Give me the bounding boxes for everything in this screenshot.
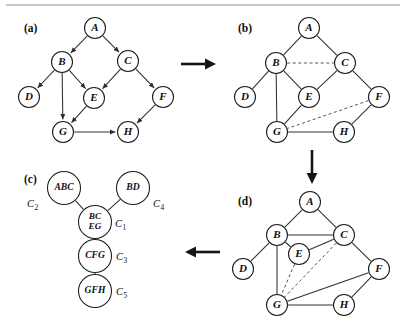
graph-nodes-layer: ABCDEFGHABCDEFGHABCDEFGHABCBDBCEGCFGGFH (19, 18, 390, 316)
edge-b-A-C (317, 36, 337, 56)
flow-arrow-head-a-to-b (205, 59, 216, 70)
node-text-d-H: H (339, 298, 349, 310)
flow-arrow-d-to-c (185, 247, 220, 258)
edge-a-B-D (38, 70, 55, 88)
edge-d-E-G (281, 264, 294, 295)
node-b-H: H (334, 122, 355, 143)
edge-b-C-E (317, 71, 337, 90)
clique-tag-subscript-BD: 4 (160, 203, 164, 212)
edge-d-F-G (287, 273, 368, 302)
edge-b-F-H (352, 105, 371, 124)
node-d-H: H (334, 295, 355, 316)
flow-arrow-b-to-d (307, 150, 318, 184)
edge-d-B-D (251, 243, 269, 261)
node-text-d-F: F (374, 262, 383, 274)
node-a-B: B (52, 52, 73, 73)
clique-tag-GFH: C5 (116, 286, 127, 299)
edge-a-A-B (71, 36, 87, 53)
node-a-A: A (85, 18, 106, 39)
flow-arrow-a-to-b (181, 59, 216, 70)
clique-tag-subscript-ABC: 2 (34, 203, 38, 212)
edge-c-BD-BCEG (108, 199, 121, 210)
node-d-E: E (289, 244, 310, 265)
node-text-c-CFG: CFG (85, 249, 105, 260)
edge-b-B-G (276, 74, 277, 121)
panel-label-c: (c) (24, 173, 37, 186)
node-text-a-F: F (158, 90, 167, 102)
edge-d-C-F (352, 243, 371, 262)
node-d-B: B (267, 225, 288, 246)
edge-b-B-E (284, 71, 302, 89)
edge-a-C-E (103, 69, 121, 88)
node-text-d-C: C (340, 228, 348, 240)
figure-canvas: ABCDEFGHABCDEFGHABCDEFGHABCBDBCEGCFGGFH … (0, 0, 406, 333)
node-b-E: E (299, 87, 320, 108)
node-text-b-G: G (273, 125, 281, 137)
node-text-c-BCEG-1: EG (88, 221, 102, 231)
node-text-a-G: G (59, 125, 67, 137)
edge-a-B-G (62, 73, 63, 119)
node-text-d-E: E (294, 247, 302, 259)
edge-c-ABC-BCEG (76, 201, 84, 210)
node-text-a-D: D (24, 90, 33, 102)
clique-tag-BD: C4 (153, 198, 164, 211)
panel-label-d: (d) (238, 195, 252, 208)
edge-b-E-G (284, 105, 301, 124)
edge-d-F-H (352, 277, 372, 297)
node-a-C: C (118, 51, 139, 72)
node-c-BD: BD (117, 172, 150, 205)
edge-d-B-E (285, 242, 290, 246)
node-text-a-H: H (123, 125, 133, 137)
node-c-BCEG: BCEG (79, 206, 112, 239)
edge-a-A-C (103, 36, 119, 52)
edge-a-B-E (69, 70, 85, 88)
flow-arrow-head-d-to-c (185, 247, 196, 258)
node-b-F: F (369, 87, 390, 108)
node-a-E: E (84, 88, 105, 109)
node-a-H: H (118, 122, 139, 143)
node-text-c-ABC: ABC (53, 181, 74, 192)
node-text-b-D: D (240, 90, 249, 102)
node-d-D: D (233, 259, 254, 280)
node-text-a-A: A (90, 21, 98, 33)
clique-tag-ABC: C2 (27, 198, 38, 211)
edge-b-B-D (252, 71, 268, 89)
edge-d-A-C (318, 210, 336, 228)
panel-label-b: (b) (238, 22, 252, 35)
clique-tag-subscript-CFG: 3 (123, 256, 127, 265)
node-a-F: F (153, 87, 174, 108)
node-text-b-B: B (271, 56, 279, 68)
edge-a-F-H (137, 105, 155, 123)
node-d-G: G (267, 295, 288, 316)
node-text-d-D: D (238, 262, 247, 274)
edge-a-E-G (72, 106, 87, 122)
node-b-G: G (267, 122, 288, 143)
edge-b-A-B (284, 36, 302, 55)
node-c-GFH: GFH (79, 275, 112, 308)
node-text-a-B: B (57, 55, 65, 67)
node-text-d-G: G (273, 298, 281, 310)
node-text-c-GFH: GFH (85, 284, 106, 295)
node-a-D: D (19, 87, 40, 108)
panel-label-a: (a) (24, 22, 38, 35)
node-text-a-E: E (89, 91, 97, 103)
node-c-ABC: ABC (48, 172, 81, 205)
clique-tag-subscript-BCEG: 1 (122, 223, 126, 232)
node-text-a-C: C (124, 54, 132, 66)
node-text-d-A: A (305, 195, 313, 207)
node-text-b-H: H (339, 125, 349, 137)
node-text-b-E: E (304, 90, 312, 102)
edge-b-F-G (288, 101, 369, 129)
node-text-c-BD: BD (125, 181, 139, 192)
edge-d-C-E (309, 239, 334, 249)
node-text-c-BCEG-0: BC (88, 211, 102, 221)
node-d-A: A (300, 192, 321, 213)
edge-a-C-F (136, 69, 154, 88)
node-b-A: A (299, 18, 320, 39)
edge-b-C-F (353, 71, 371, 89)
node-b-D: D (235, 87, 256, 108)
node-text-b-F: F (374, 90, 383, 102)
node-a-G: G (53, 122, 74, 143)
node-b-C: C (335, 53, 356, 74)
clique-tag-BCEG: C1 (115, 218, 126, 231)
